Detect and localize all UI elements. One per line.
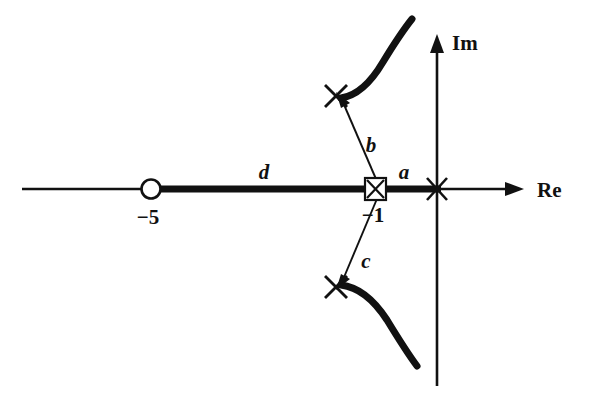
pole-minus-one-marker	[365, 178, 386, 200]
segment-label-d: d	[259, 160, 270, 184]
vector-label-c: c	[361, 249, 371, 273]
zero-minus-five-marker	[142, 180, 161, 199]
lower-branch-curve	[341, 285, 417, 366]
segment-label-a: a	[399, 160, 410, 184]
real-axis-arrowhead	[505, 182, 524, 196]
imaginary-axis	[430, 34, 444, 386]
point-label-minus-one: −1	[362, 203, 384, 227]
upper-branch-curve	[341, 19, 412, 98]
imaginary-axis-label: Im	[452, 31, 478, 55]
root-locus-figure: Im Re d a b c −1 −5	[0, 0, 594, 405]
root-locus-plot: Im Re d a b c −1 −5	[0, 0, 594, 405]
point-label-minus-five: −5	[137, 205, 159, 229]
imaginary-axis-arrowhead	[430, 34, 444, 53]
real-axis-label: Re	[537, 178, 562, 202]
vector-label-b: b	[366, 133, 377, 157]
zero-circle-icon	[142, 180, 161, 199]
